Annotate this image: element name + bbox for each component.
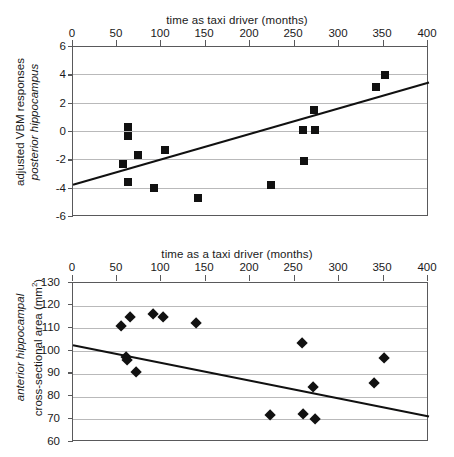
x-tick-label-bottom-200: 200: [229, 261, 269, 273]
x-tick-label-top-200: 200: [229, 27, 269, 39]
gridline-top-4: [73, 74, 427, 75]
gridline-bottom-90: [73, 374, 427, 375]
x-tick-label-bottom-350: 350: [362, 261, 402, 273]
y-tick-label-top-neg4: -4: [40, 182, 66, 194]
data-point-bottom-4: [130, 366, 142, 378]
data-point-bottom-7: [190, 317, 202, 329]
plot-area-top: [72, 46, 428, 216]
x-tick-label-top-0: 0: [52, 27, 92, 39]
data-point-top-4: [134, 151, 142, 159]
data-point-top-1: [124, 123, 132, 131]
data-point-top-8: [267, 181, 275, 189]
x-tick-label-top-250: 250: [273, 27, 313, 39]
y-tick-label-top-2: 2: [40, 97, 66, 109]
data-point-top-10: [300, 157, 308, 165]
x-tick-mark-bottom-400: [427, 275, 428, 281]
gridline-bottom-110: [73, 328, 427, 329]
chart-panel-posterior-hippocampus: time as taxi driver (months) adjusted VB…: [0, 0, 454, 230]
gridline-top-neg4: [73, 188, 427, 189]
data-point-bottom-11: [307, 382, 319, 394]
x-tick-label-bottom-250: 250: [273, 261, 313, 273]
x-tick-mark-bottom-100: [160, 275, 161, 281]
x-tick-label-top-300: 300: [318, 27, 358, 39]
x-tick-mark-bottom-350: [383, 275, 384, 281]
y-tick-label-top-0: 0: [40, 125, 66, 137]
data-point-top-7: [194, 194, 202, 202]
data-point-bottom-9: [296, 337, 308, 349]
data-point-bottom-14: [379, 353, 391, 365]
y-axis-title-top-line1: adjusted VBM responses: [14, 32, 28, 212]
y-tick-label-bottom-80: 80: [34, 389, 60, 401]
y-tick-label-top-4: 4: [40, 68, 66, 80]
y-tick-label-bottom-70: 70: [34, 412, 60, 424]
y-axis-title-top: adjusted VBM responses posterior hippoca…: [14, 32, 41, 212]
y-tick-label-bottom-90: 90: [34, 366, 60, 378]
x-tick-mark-bottom-200: [249, 275, 250, 281]
x-axis-title-bottom: time as a taxi driver (months): [10, 248, 454, 260]
x-axis-title-top: time as taxi driver (months): [10, 14, 454, 26]
data-point-top-2: [124, 132, 132, 140]
x-tick-label-top-50: 50: [96, 27, 136, 39]
gridline-bottom-120: [73, 306, 427, 307]
y-tick-label-bottom-130: 130: [34, 276, 60, 288]
data-point-top-3: [124, 178, 132, 186]
x-tick-mark-bottom-0: [72, 275, 73, 281]
x-tick-label-bottom-400: 400: [407, 261, 447, 273]
x-tick-label-top-100: 100: [140, 27, 180, 39]
gridline-top-2: [73, 103, 427, 104]
y-tick-label-top-6: 6: [40, 40, 66, 52]
data-point-top-14: [381, 71, 389, 79]
x-tick-label-bottom-300: 300: [318, 261, 358, 273]
x-tick-mark-bottom-300: [338, 275, 339, 281]
x-tick-label-bottom-0: 0: [52, 261, 92, 273]
data-point-bottom-13: [368, 377, 380, 389]
y-tick-label-bottom-60: 60: [34, 435, 60, 447]
y-tick-mark-top-neg6: [68, 216, 73, 217]
x-tick-mark-bottom-50: [116, 275, 117, 281]
data-point-top-5: [150, 184, 158, 192]
x-tick-label-top-400: 400: [407, 27, 447, 39]
y-axis-title-top-line2: posterior hippocampus: [28, 32, 42, 212]
data-point-top-11: [310, 106, 318, 114]
y-tick-label-top-neg2: -2: [40, 153, 66, 165]
data-point-bottom-10: [297, 408, 309, 420]
x-tick-label-bottom-50: 50: [96, 261, 136, 273]
x-tick-label-bottom-100: 100: [140, 261, 180, 273]
data-point-top-0: [119, 160, 127, 168]
data-point-top-6: [161, 146, 169, 154]
y-tick-label-bottom-110: 110: [34, 321, 60, 333]
x-tick-label-top-350: 350: [362, 27, 402, 39]
data-point-top-9: [299, 126, 307, 134]
y-axis-title-bottom-line1: anterior hippocampal: [14, 260, 28, 435]
gridline-bottom-80: [73, 397, 427, 398]
data-point-top-13: [372, 83, 380, 91]
y-tick-label-bottom-120: 120: [34, 298, 60, 310]
x-tick-mark-bottom-250: [294, 275, 295, 281]
data-point-bottom-0: [115, 320, 127, 332]
data-point-bottom-3: [124, 311, 136, 323]
data-point-bottom-12: [309, 413, 321, 425]
data-point-top-12: [311, 126, 319, 134]
y-tick-label-bottom-100: 100: [34, 344, 60, 356]
plot-area-bottom: [72, 282, 428, 441]
x-tick-label-bottom-150: 150: [184, 261, 224, 273]
x-tick-label-top-150: 150: [184, 27, 224, 39]
chart-panel-anterior-hippocampal: time as a taxi driver (months) anterior …: [0, 230, 454, 457]
gridline-bottom-70: [73, 419, 427, 420]
y-tick-label-top-neg6: -6: [40, 210, 66, 222]
figure-container: time as taxi driver (months) adjusted VB…: [0, 0, 454, 457]
x-tick-mark-bottom-150: [205, 275, 206, 281]
